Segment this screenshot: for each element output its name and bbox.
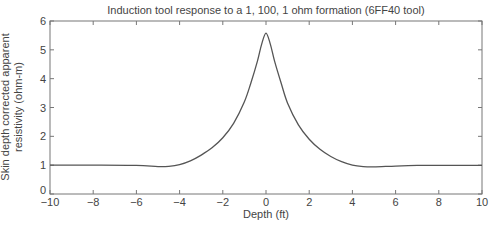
x-tick-label: −8: [87, 196, 100, 208]
x-tick-label: −4: [173, 196, 186, 208]
y-tick-label: 2: [40, 130, 46, 142]
x-tick-label: −6: [130, 196, 143, 208]
y-tick-label: 3: [40, 102, 46, 114]
x-tick-label: 8: [436, 196, 442, 208]
x-tick-label: 2: [306, 196, 312, 208]
y-tick-label: 0: [40, 184, 46, 196]
y-tick-label: 1: [40, 159, 46, 171]
y-tick-label: 5: [40, 44, 46, 56]
plot-axes: −10−8−6−4−202468100123456: [40, 15, 488, 208]
x-tick-label: 10: [476, 196, 488, 208]
data-line: [50, 33, 482, 167]
x-tick-label: −10: [41, 196, 60, 208]
plot-frame: [50, 21, 482, 194]
x-tick-label: −2: [217, 196, 230, 208]
line-chart: −10−8−6−4−202468100123456: [0, 0, 492, 228]
y-tick-label: 4: [40, 73, 46, 85]
y-tick-label: 6: [40, 15, 46, 27]
x-tick-label: 6: [393, 196, 399, 208]
x-tick-label: 0: [263, 196, 269, 208]
x-tick-label: 4: [349, 196, 355, 208]
